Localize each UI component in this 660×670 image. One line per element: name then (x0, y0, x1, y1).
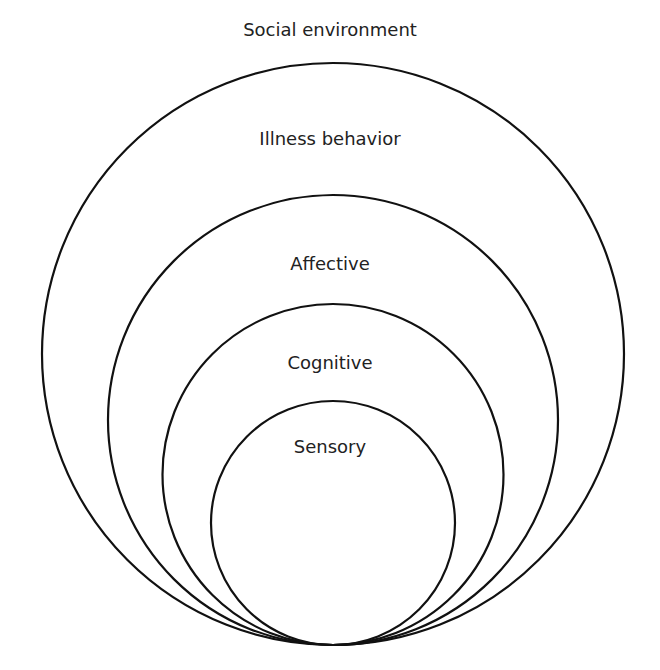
label-social-environment: Social environment (0, 19, 660, 41)
circles-svg (0, 0, 660, 670)
label-illness-behavior: Illness behavior (0, 128, 660, 150)
label-sensory: Sensory (0, 436, 660, 458)
pain-model-nested-circles-diagram: Social environment Illness behavior Affe… (0, 0, 660, 670)
label-cognitive: Cognitive (0, 352, 660, 374)
label-affective: Affective (0, 253, 660, 275)
